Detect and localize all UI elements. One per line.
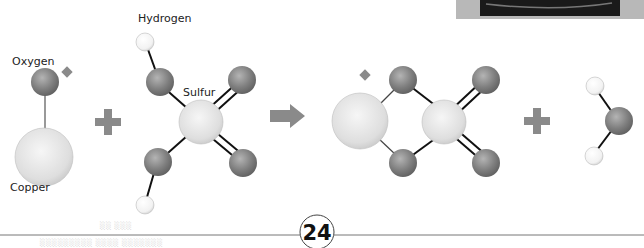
copper-oxide-molecule: Oxygen Copper [10, 55, 73, 194]
oxygen-atom [146, 68, 174, 96]
copper-sulfate-molecule [332, 66, 500, 177]
oxygen-atom [144, 148, 172, 176]
oxygen-atom [228, 66, 256, 94]
sulfur-label: Sulfur [183, 86, 216, 99]
water-molecule [585, 77, 633, 165]
page-number: 24 [302, 221, 331, 245]
bond [597, 130, 612, 150]
bleedthrough-text: ░░░░░░░░░ ░░░░ ░░░░░░░ [40, 238, 163, 247]
plus-icon [95, 109, 121, 135]
charge-diamond-icon [61, 66, 72, 77]
hydrogen-label: Hydrogen [138, 12, 192, 25]
sulfur-atom [179, 100, 223, 144]
bleedthrough-text: ░░ ░░░ [100, 221, 132, 230]
oxygen-atom [31, 68, 59, 96]
page-footer: 24 ░░ ░░░ ░░░░░░░░░ ░░░░ ░░░░░░░ [0, 215, 644, 248]
copper-atom [15, 128, 73, 186]
oxygen-atom [229, 149, 257, 177]
bond [410, 86, 436, 106]
bond [598, 92, 612, 112]
reaction-arrow-icon [270, 104, 305, 128]
oxygen-label: Oxygen [12, 55, 54, 68]
bond [380, 88, 396, 104]
copper-label: Copper [10, 181, 50, 194]
hydrogen-atom [136, 33, 154, 51]
oxygen-atom [472, 149, 500, 177]
sulfur-atom [422, 100, 466, 144]
charge-diamond-icon [359, 69, 370, 80]
bond [378, 138, 396, 155]
hydrogen-atom [586, 77, 604, 95]
oxygen-atom [472, 66, 500, 94]
reaction-diagram: Oxygen Copper Hydrogen Sulfur [0, 0, 644, 248]
copper-atom [332, 93, 388, 149]
photo-fragment [456, 0, 644, 19]
hydrogen-atom [136, 196, 154, 214]
oxygen-atom [605, 107, 633, 135]
sulfuric-acid-molecule: Hydrogen Sulfur [136, 12, 257, 214]
oxygen-atom [389, 66, 417, 94]
hydrogen-atom [585, 147, 603, 165]
oxygen-atom [389, 149, 417, 177]
plus-icon [524, 108, 550, 134]
